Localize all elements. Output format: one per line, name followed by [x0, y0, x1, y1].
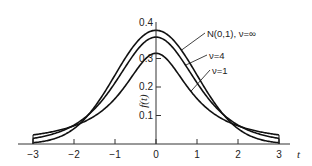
x-tick-label: 3: [276, 149, 282, 160]
y-tick-label: 0.2: [139, 81, 153, 92]
y-tick-label: 0.1: [139, 110, 153, 121]
x-tick-label: 1: [194, 149, 200, 160]
x-tick-label: −2: [68, 149, 80, 160]
y-tick-label: 0.3: [139, 53, 153, 64]
legend-leader-line: [181, 33, 205, 50]
legend-label: ν=4: [209, 50, 225, 61]
y-tick-label: 0.4: [139, 17, 153, 28]
inline-legend: N(0,1), ν=∞ν=4ν=1: [181, 28, 256, 92]
x-axis-ticks: −3−2−10123: [27, 139, 282, 160]
t-distribution-chart: −3−2−10123 0.10.20.30.4 t f(t) N(0,1), ν…: [0, 0, 312, 166]
x-axis-label: t: [297, 148, 301, 160]
x-tick-label: −3: [27, 149, 39, 160]
y-axis-label: f(t): [137, 94, 150, 108]
x-tick-label: −1: [109, 149, 121, 160]
legend-label: N(0,1), ν=∞: [207, 28, 256, 39]
x-tick-label: 0: [153, 149, 159, 160]
legend-label: ν=1: [212, 65, 228, 76]
x-tick-label: 2: [235, 149, 241, 160]
